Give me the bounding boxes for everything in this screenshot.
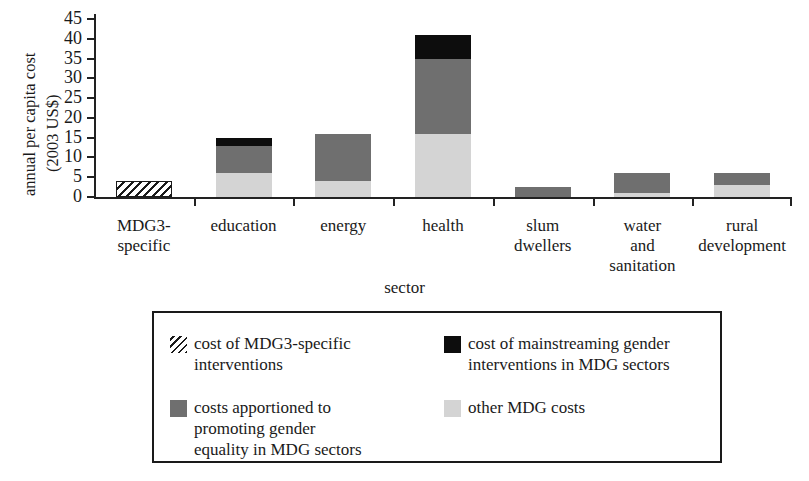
legend-label-line: promoting gender <box>194 418 362 439</box>
y-tick: 30 <box>87 77 94 79</box>
y-tick-label: 45 <box>42 9 82 27</box>
legend-swatch-light-gray-icon <box>444 400 461 417</box>
y-tick-label: 0 <box>42 187 82 205</box>
bar-segment-gender <box>714 173 770 185</box>
legend-label-line: other MDG costs <box>468 397 585 418</box>
y-tick-label: 10 <box>42 147 82 165</box>
y-tick: 35 <box>87 58 94 60</box>
y-tick-mark <box>87 176 94 178</box>
y-tick-label: 40 <box>42 29 82 47</box>
x-tick <box>593 198 595 206</box>
bar-segment-other <box>315 181 371 197</box>
x-axis-label-line: specific <box>94 236 194 256</box>
plot-area: 051015202530354045 MDG3-specificeducatio… <box>94 14 792 198</box>
legend-item-other-mdg-costs: other MDG costs <box>444 397 585 418</box>
legend-label: cost of mainstreaming gender interventio… <box>468 333 670 375</box>
legend-swatch-hatch-icon <box>170 336 187 353</box>
x-axis-label-line: water <box>593 216 693 236</box>
legend-label: costs apportioned to promoting gender eq… <box>194 397 362 460</box>
x-axis-title: sector <box>0 278 809 298</box>
y-tick-mark <box>87 137 94 139</box>
bar-segment-gender <box>614 173 670 193</box>
y-tick-label: 20 <box>42 108 82 126</box>
bar-segment-mainstreaming <box>216 138 272 146</box>
legend-label-line: costs apportioned to <box>194 397 362 418</box>
y-tick-mark <box>87 97 94 99</box>
bar-slum-dwellers <box>515 13 571 197</box>
y-tick: 15 <box>87 137 94 139</box>
y-tick-label: 35 <box>42 49 82 67</box>
x-tick <box>194 198 196 206</box>
bar-segment-other <box>415 134 471 197</box>
bar-segment-mainstreaming <box>415 35 471 59</box>
y-tick: 40 <box>87 38 94 40</box>
x-axis-label-line: rural <box>692 216 792 236</box>
bar-water-and-sanitation <box>614 13 670 197</box>
x-tick <box>692 198 694 206</box>
y-tick: 10 <box>87 156 94 158</box>
x-axis-label-line: slum <box>493 216 593 236</box>
legend-label-line: equality in MDG sectors <box>194 439 362 460</box>
x-tick <box>493 198 495 206</box>
y-tick-label: 5 <box>42 167 82 185</box>
y-tick-label: 30 <box>42 68 82 86</box>
legend-label-line: interventions in MDG sectors <box>468 354 670 375</box>
y-tick: 45 <box>87 18 94 20</box>
legend-item-mdg3-specific: cost of MDG3-specific interventions <box>170 333 351 375</box>
x-axis-label-line: health <box>393 216 493 236</box>
bar-energy <box>315 13 371 197</box>
x-axis-label-mdg3-specific: MDG3-specific <box>94 216 194 256</box>
x-axis-label-rural-development: ruraldevelopment <box>692 216 792 256</box>
legend-label-line: cost of MDG3-specific <box>194 333 351 354</box>
x-tick <box>393 198 395 206</box>
x-axis-label-line: energy <box>293 216 393 236</box>
x-axis-label-education: education <box>194 216 294 236</box>
y-tick-mark <box>87 117 94 119</box>
x-axis-label-line: dwellers <box>493 236 593 256</box>
y-tick-mark <box>87 18 94 20</box>
x-axis-line <box>94 197 792 199</box>
legend-label: other MDG costs <box>468 397 585 418</box>
x-tick <box>293 198 295 206</box>
y-axis-title-line-1: annual per capita cost <box>20 53 40 196</box>
bar-chart-figure: annual per capita cost (2003 US$) 051015… <box>0 0 809 481</box>
y-tick-mark <box>87 156 94 158</box>
x-axis-label-line: MDG3- <box>94 216 194 236</box>
bar-segment-gender <box>216 146 272 174</box>
x-axis-label-line: sanitation <box>593 256 693 276</box>
legend-label: cost of MDG3-specific interventions <box>194 333 351 375</box>
bar-segment-other <box>714 185 770 197</box>
bar-education <box>216 13 272 197</box>
x-tick <box>790 198 792 206</box>
y-tick-mark <box>87 196 94 198</box>
x-axis-label-line: and <box>593 236 693 256</box>
bar-rural-development <box>714 13 770 197</box>
bar-segment-gender <box>315 134 371 181</box>
y-tick: 25 <box>87 97 94 99</box>
y-tick-label: 15 <box>42 128 82 146</box>
bar-segment-gender <box>515 187 571 197</box>
bar-segment-mdg3 <box>116 181 172 197</box>
x-axis-label-line: education <box>194 216 294 236</box>
bar-segment-other <box>614 193 670 197</box>
y-tick: 20 <box>87 117 94 119</box>
legend-item-gender-equality: costs apportioned to promoting gender eq… <box>170 397 362 460</box>
x-axis-label-line: development <box>692 236 792 256</box>
y-tick-mark <box>87 77 94 79</box>
legend-label-line: interventions <box>194 354 351 375</box>
y-tick-mark <box>87 38 94 40</box>
legend-label-line: cost of mainstreaming gender <box>468 333 670 354</box>
x-axis-label-energy: energy <box>293 216 393 236</box>
bar-segment-other <box>216 173 272 197</box>
y-tick-mark <box>87 58 94 60</box>
y-axis-line <box>94 14 96 198</box>
legend-swatch-black-icon <box>444 336 461 353</box>
y-tick: 5 <box>87 176 94 178</box>
bar-health <box>415 13 471 197</box>
bar-mdg3-specific <box>116 13 172 197</box>
y-tick-label: 25 <box>42 88 82 106</box>
y-tick: 0 <box>87 196 94 198</box>
legend-swatch-dark-gray-icon <box>170 400 187 417</box>
chart-legend: cost of MDG3-specific interventions cost… <box>152 311 722 463</box>
x-axis-label-health: health <box>393 216 493 236</box>
